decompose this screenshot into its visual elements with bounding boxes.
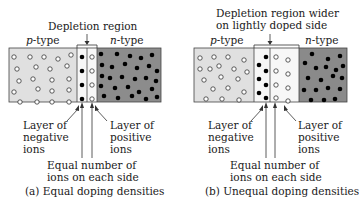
panel-a-title: Depletion region [48,20,137,32]
panel-a-p-type-label: p-type [26,34,59,46]
panel-a-positive-ions-label: Layer of positive ions [110,119,154,155]
panel-b-title: Depletion region wider on lightly doped … [216,7,326,31]
panel-a-caption: (a) Equal doping densities [25,185,164,197]
panel-a-n-type-label: n-type [110,34,143,46]
panel-b-n-type-label: n-type [305,34,338,46]
panel-b-equal-ions-label: Equal number of ions on each side [230,159,310,183]
panel-a-negative-ions-label: Layer of negative ions [23,119,69,155]
panel-b-negative-ions-label: Layer of negative ions [208,119,254,155]
panel-a-equal-ions-label: Equal number of ions on each side [47,159,127,183]
panel-b-p-type-label: p-type [210,34,243,46]
panel-b-positive-ions-label: Layer of positive ions [298,119,342,155]
panel-b-caption: (b) Unequal doping densities [205,185,359,197]
